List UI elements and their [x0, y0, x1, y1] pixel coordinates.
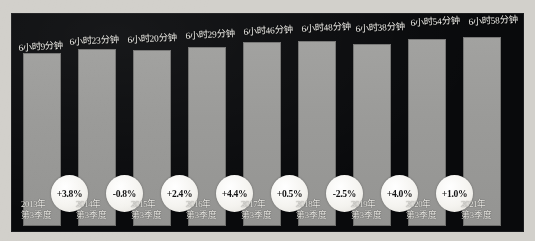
- x-axis-label-2018-line1: 2018年: [296, 199, 327, 210]
- x-axis-label-2013: 2013年 第3季度: [21, 199, 52, 220]
- bar-value-label-2017: 6小时46分钟: [243, 25, 292, 37]
- x-axis-label-2015-line1: 2015年: [131, 199, 162, 210]
- x-axis-label-2013-line1: 2013年: [21, 199, 52, 210]
- bar-value-label-2015: 6小时20分钟: [127, 33, 176, 45]
- bar-value-label-2021: 6小时58分钟: [468, 15, 517, 27]
- x-axis-label-2017: 2017年 第3季度: [241, 199, 272, 220]
- x-axis-label-2018: 2018年 第3季度: [296, 199, 327, 220]
- bar-value-label-2018: 6小时48分钟: [301, 22, 350, 34]
- x-axis-label-2014-line2: 第3季度: [76, 210, 107, 221]
- x-axis-label-2020-line2: 第3季度: [406, 210, 437, 221]
- bar-value-label-2016: 6小时29分钟: [185, 29, 234, 41]
- x-axis-label-2014-line1: 2014年: [76, 199, 107, 210]
- x-axis-label-2016: 2016年 第3季度: [186, 199, 217, 220]
- bar-value-label-2019: 6小时38分钟: [355, 22, 404, 34]
- x-axis-label-2017-line2: 第3季度: [241, 210, 272, 221]
- x-axis-label-2015-line2: 第3季度: [131, 210, 162, 221]
- x-axis-label-2016-line1: 2016年: [186, 199, 217, 210]
- x-axis-label-2013-line2: 第3季度: [21, 210, 52, 221]
- x-axis-label-2016-line2: 第3季度: [186, 210, 217, 221]
- bar-value-label-2020: 6小时54分钟: [410, 16, 459, 28]
- x-axis-label-2019-line2: 第3季度: [351, 210, 382, 221]
- x-axis-label-2017-line1: 2017年: [241, 199, 272, 210]
- x-axis-label-2014: 2014年 第3季度: [76, 199, 107, 220]
- x-axis-label-2015: 2015年 第3季度: [131, 199, 162, 220]
- chart-figure: 6小时9分钟 6小时23分钟 6小时20分钟 6小时29分钟 6小时46分钟 6…: [0, 0, 535, 241]
- chart-plot-area: 6小时9分钟 6小时23分钟 6小时20分钟 6小时29分钟 6小时46分钟 6…: [11, 13, 524, 232]
- x-axis-label-2021: 2021年 第3季度: [461, 199, 492, 220]
- x-axis-label-2021-line2: 第3季度: [461, 210, 492, 221]
- bar-value-label-2013: 6小时9分钟: [18, 41, 63, 53]
- x-axis-label-2019-line1: 2019年: [351, 199, 382, 210]
- x-axis-label-2018-line2: 第3季度: [296, 210, 327, 221]
- x-axis-label-2020-line1: 2020年: [406, 199, 437, 210]
- x-axis-label-2019: 2019年 第3季度: [351, 199, 382, 220]
- x-axis-label-2020: 2020年 第3季度: [406, 199, 437, 220]
- bar-value-label-2014: 6小时23分钟: [69, 35, 118, 47]
- x-axis-label-2021-line1: 2021年: [461, 199, 492, 210]
